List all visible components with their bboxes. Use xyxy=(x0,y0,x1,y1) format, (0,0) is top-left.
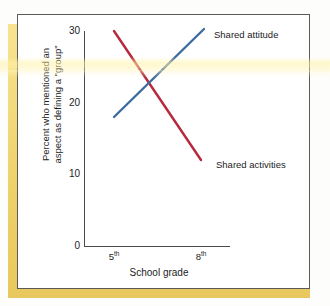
line-shared-attitude xyxy=(114,29,204,117)
series-label-shared-activities: Shared activities xyxy=(216,159,286,170)
chart-screenshot: 30 20 10 0 5th 8th School grade Percent … xyxy=(0,0,330,306)
data-lines xyxy=(18,15,311,290)
series-label-shared-attitude: Shared attitude xyxy=(214,29,278,40)
line-shared-activities xyxy=(114,31,201,160)
plot-area: 30 20 10 0 5th 8th School grade Percent … xyxy=(18,15,311,290)
chart-card: 30 20 10 0 5th 8th School grade Percent … xyxy=(17,14,310,289)
